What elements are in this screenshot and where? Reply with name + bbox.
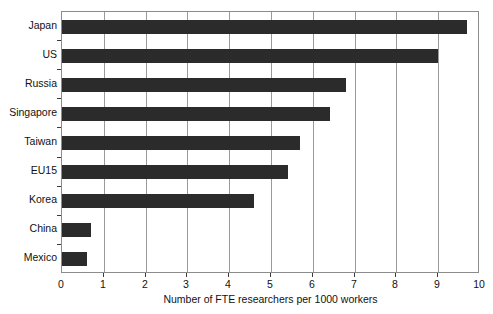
x-tick-label-6: 6 [297,278,327,290]
x-axis-tick-6 [312,273,313,277]
x-axis: 012345678910 [61,273,479,295]
bar-singapore [62,107,330,121]
x-tick-label-8: 8 [380,278,410,290]
x-tick-label-10: 10 [464,278,493,290]
bar-row [62,20,480,34]
x-tick-label-0: 0 [46,278,76,290]
y-axis-tick [57,40,61,41]
bar-korea [62,194,254,208]
x-axis-tick-8 [395,273,396,277]
bar-row [62,136,480,150]
bar-china [62,223,91,237]
y-axis-tick [57,69,61,70]
bar-japan [62,20,467,34]
bar-taiwan [62,136,300,150]
y-label-china: China [1,223,57,234]
y-axis-tick [57,127,61,128]
y-label-korea: Korea [1,194,57,205]
y-label-taiwan: Taiwan [1,136,57,147]
y-axis-tick [57,215,61,216]
bar-row [62,252,480,266]
y-axis-tick [57,98,61,99]
x-axis-title: Number of FTE researchers per 1000 worke… [0,293,493,306]
x-tick-label-1: 1 [88,278,118,290]
y-axis-tick [57,244,61,245]
x-axis-tick-5 [270,273,271,277]
plot-area [61,11,479,273]
x-axis-tick-1 [103,273,104,277]
x-tick-label-7: 7 [339,278,369,290]
bar-row [62,165,480,179]
y-label-russia: Russia [1,78,57,89]
x-tick-label-2: 2 [130,278,160,290]
x-tick-label-9: 9 [422,278,452,290]
y-axis-tick [57,186,61,187]
bar-mexico [62,252,87,266]
y-label-eu15: EU15 [1,165,57,176]
y-axis-category-labels: JapanUSRussiaSingaporeTaiwanEU15KoreaChi… [0,11,57,273]
bar-row [62,194,480,208]
x-tick-label-3: 3 [171,278,201,290]
bar-eu15 [62,165,288,179]
bar-russia [62,78,346,92]
y-label-us: US [1,49,57,60]
bar-chart: JapanUSRussiaSingaporeTaiwanEU15KoreaChi… [0,0,493,314]
y-label-japan: Japan [1,20,57,31]
bar-us [62,49,438,63]
x-axis-tick-4 [228,273,229,277]
bar-row [62,223,480,237]
bar-row [62,49,480,63]
x-axis-tick-2 [145,273,146,277]
y-axis-tick [57,157,61,158]
x-tick-label-5: 5 [255,278,285,290]
x-axis-tick-3 [186,273,187,277]
x-axis-tick-9 [437,273,438,277]
y-label-singapore: Singapore [1,107,57,118]
x-axis-tick-7 [354,273,355,277]
x-tick-label-4: 4 [213,278,243,290]
bar-row [62,107,480,121]
y-label-mexico: Mexico [1,252,57,263]
bar-row [62,78,480,92]
